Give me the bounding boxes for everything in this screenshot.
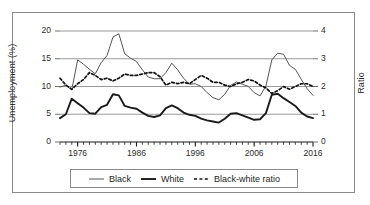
- series-line: [60, 73, 313, 94]
- legend-swatch-ratio-icon: [193, 175, 210, 183]
- x-axis: [60, 142, 313, 147]
- y-tick-label-left: 20: [29, 25, 51, 35]
- y-tick-label-left: 0: [29, 136, 51, 146]
- y-axis-left-ticks: [55, 31, 60, 142]
- y-tick-label-right: 2: [321, 81, 343, 91]
- gridlines: [60, 31, 313, 114]
- x-tick-label: 1986: [119, 148, 153, 158]
- legend-item[interactable]: Black-white ratio: [193, 174, 280, 184]
- x-tick-label: 2016: [296, 148, 330, 158]
- y-tick-label-left: 10: [29, 81, 51, 91]
- x-tick-label: 1996: [178, 148, 212, 158]
- y-tick-label-right: 1: [321, 108, 343, 118]
- series-line: [60, 34, 313, 100]
- y-axis-left-title: Unemployment (%): [7, 38, 17, 128]
- y-tick-label-left: 5: [29, 108, 51, 118]
- y-tick-label-right: 0: [321, 136, 343, 146]
- figure-container: Unemployment (%) Ratio 05101520012341976…: [0, 0, 370, 205]
- y-tick-label-right: 3: [321, 53, 343, 63]
- legend-swatch-black-icon: [88, 175, 105, 183]
- y-axis-right-ticks: [313, 31, 318, 142]
- y-axis-right-title: Ratio: [356, 38, 366, 128]
- series-lines: [60, 34, 313, 123]
- y-tick-label-right: 4: [321, 25, 343, 35]
- legend-item[interactable]: Black: [88, 174, 131, 184]
- chart-legend: BlackWhiteBlack-white ratio: [70, 169, 298, 188]
- legend-label: Black-white ratio: [214, 174, 280, 184]
- legend-label: Black: [109, 174, 131, 184]
- y-tick-label-left: 15: [29, 53, 51, 63]
- legend-swatch-white-icon: [140, 175, 157, 183]
- legend-label: White: [161, 174, 184, 184]
- x-tick-label: 2006: [237, 148, 271, 158]
- legend-item[interactable]: White: [140, 174, 184, 184]
- x-tick-label: 1976: [61, 148, 95, 158]
- series-line: [60, 94, 313, 123]
